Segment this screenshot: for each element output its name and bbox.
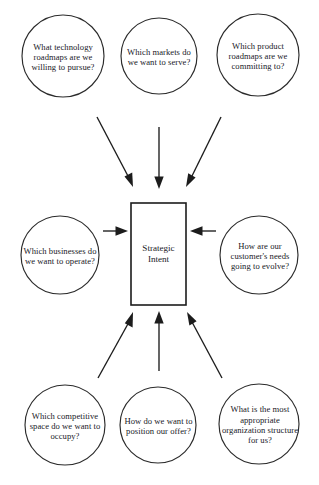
node-circle-markets-to-serve[interactable] (121, 18, 197, 94)
node-circle-position-offer[interactable] (120, 387, 196, 463)
arrow-organization-structure-to-center (187, 312, 222, 378)
arrow-product-roadmaps-to-center (186, 117, 221, 187)
arrow-markets-to-serve-to-center (154, 127, 163, 189)
node-circle-product-roadmaps[interactable] (217, 14, 299, 96)
arrow-technology-roadmaps-to-center (97, 117, 133, 187)
node-circle-technology-roadmaps[interactable] (22, 15, 104, 97)
arrow-businesses-to-operate-to-center (103, 226, 128, 236)
node-circle-businesses-to-operate[interactable] (21, 216, 99, 294)
arrow-competitive-space-to-center (98, 312, 133, 378)
diagram-canvas: What technology roadmaps are we willing … (0, 0, 319, 485)
node-circle-customer-needs[interactable] (220, 216, 298, 294)
center-box-label: Strategic Intent (131, 203, 186, 305)
node-circle-organization-structure[interactable] (219, 384, 299, 464)
arrow-position-offer-to-center (154, 311, 163, 371)
node-circle-competitive-space[interactable] (25, 385, 105, 465)
center-box-text: Strategic Intent (131, 243, 186, 265)
arrow-customer-needs-to-center (190, 226, 216, 236)
